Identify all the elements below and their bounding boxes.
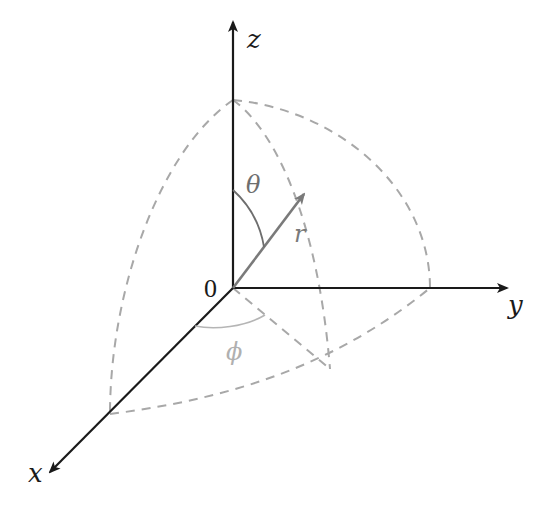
- origin-label: 0: [204, 274, 217, 303]
- yz-meridian-arc: [233, 100, 430, 288]
- xz-meridian-arc: [110, 100, 233, 414]
- x-axis: [50, 288, 233, 472]
- x-axis-label: x: [28, 458, 43, 488]
- projection-line: [233, 288, 330, 369]
- z-axis-label: z: [246, 24, 261, 54]
- point-meridian-arc: [233, 100, 330, 369]
- sphere-octant-outline: [110, 100, 430, 414]
- theta-label: θ: [246, 171, 261, 199]
- equator-arc: [110, 288, 430, 414]
- axes: [50, 22, 507, 472]
- phi-label: ϕ: [226, 338, 242, 366]
- spherical-coordinates-diagram: z y x 0 θ r ϕ: [0, 0, 549, 508]
- r-label: r: [294, 220, 307, 248]
- y-axis-label: y: [507, 290, 523, 320]
